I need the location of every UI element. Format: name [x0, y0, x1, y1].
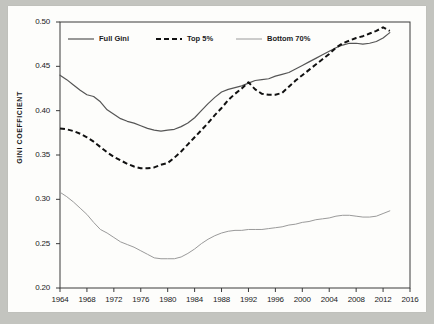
legend-swatch-icon: [156, 35, 182, 43]
legend-swatch-icon: [236, 35, 262, 43]
y-axis-tick-label: 0.25: [20, 239, 50, 248]
series-line-full-gini: [60, 33, 390, 131]
y-axis-tick-label: 0.50: [20, 17, 50, 26]
series-line-top-5: [60, 27, 390, 168]
legend-item-top-5[interactable]: Top 5%: [156, 34, 213, 43]
y-axis-tick-label: 0.30: [20, 194, 50, 203]
legend-swatch-icon: [68, 35, 94, 43]
figure-paper: GINI COEFFICIENT 0.200.250.300.350.400.4…: [8, 6, 426, 312]
x-axis-tick-label: 2016: [393, 295, 427, 304]
legend-item-full-gini[interactable]: Full Gini: [68, 34, 129, 43]
y-axis-tick-label: 0.20: [20, 283, 50, 292]
screenshot-page: GINI COEFFICIENT 0.200.250.300.350.400.4…: [0, 0, 434, 324]
gini-line-chart: GINI COEFFICIENT 0.200.250.300.350.400.4…: [8, 6, 426, 312]
y-axis-tick-label: 0.40: [20, 106, 50, 115]
legend-item-label: Full Gini: [99, 34, 129, 43]
legend-item-label: Bottom 70%: [267, 34, 310, 43]
plot-canvas: [8, 6, 426, 312]
y-axis-tick-label: 0.45: [20, 61, 50, 70]
legend-item-label: Top 5%: [187, 34, 213, 43]
y-axis-title: GINI COEFFICIENT: [16, 73, 23, 183]
legend-item-bottom-70[interactable]: Bottom 70%: [236, 34, 310, 43]
y-axis-tick-label: 0.35: [20, 150, 50, 159]
series-line-bottom-70: [60, 192, 390, 258]
